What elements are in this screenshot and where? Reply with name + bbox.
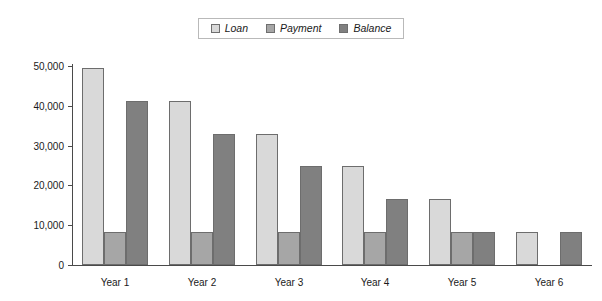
y-axis-tick-mark: [68, 185, 72, 186]
bar-loan-year-2[interactable]: [169, 101, 191, 265]
bar-payment-year-5[interactable]: [451, 232, 473, 265]
bar-loan-year-3[interactable]: [256, 134, 278, 265]
bar-balance-year-1[interactable]: [126, 101, 148, 265]
x-axis-tick-label: Year 6: [535, 277, 564, 288]
y-axis-tick-label: 50,000: [16, 61, 64, 72]
x-axis-tick-label: Year 4: [361, 277, 390, 288]
bar-chart: LoanPaymentBalance 010,00020,00030,00040…: [0, 0, 602, 301]
y-axis-tick-label: 10,000: [16, 220, 64, 231]
x-axis-tick-label: Year 2: [188, 277, 217, 288]
plot-area: 010,00020,00030,00040,00050,000Year 1Yea…: [0, 0, 602, 301]
bar-loan-year-5[interactable]: [429, 199, 451, 265]
y-axis-tick-mark: [68, 225, 72, 226]
bar-balance-year-2[interactable]: [213, 134, 235, 265]
y-axis-tick-label: 20,000: [16, 180, 64, 191]
bar-payment-year-2[interactable]: [191, 232, 213, 265]
x-axis-line: [72, 265, 592, 266]
bar-loan-year-4[interactable]: [342, 166, 364, 265]
x-axis-tick-label: Year 3: [275, 277, 304, 288]
bar-balance-year-6[interactable]: [560, 232, 582, 265]
x-axis-tick-label: Year 5: [448, 277, 477, 288]
y-axis-tick-mark: [68, 146, 72, 147]
y-axis-tick-label: 40,000: [16, 100, 64, 111]
y-axis-tick-mark: [68, 265, 72, 266]
bar-balance-year-3[interactable]: [300, 166, 322, 265]
bar-payment-year-1[interactable]: [104, 232, 126, 265]
bar-loan-year-1[interactable]: [82, 68, 104, 265]
bar-balance-year-4[interactable]: [386, 199, 408, 265]
y-axis-line: [72, 64, 73, 266]
y-axis-tick-mark: [68, 106, 72, 107]
bar-payment-year-3[interactable]: [278, 232, 300, 265]
bar-balance-year-5[interactable]: [473, 232, 495, 265]
y-axis-tick-mark: [68, 66, 72, 67]
y-axis-tick-label: 30,000: [16, 140, 64, 151]
y-axis-tick-label: 0: [16, 260, 64, 271]
bar-payment-year-4[interactable]: [364, 232, 386, 265]
bar-loan-year-6[interactable]: [516, 232, 538, 265]
x-axis-tick-label: Year 1: [101, 277, 130, 288]
